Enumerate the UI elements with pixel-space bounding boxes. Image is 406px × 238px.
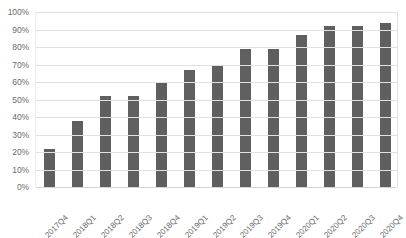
x-axis-tick-text: 2020Q1 [294, 213, 320, 238]
bar [324, 26, 335, 187]
gridline [36, 65, 397, 66]
x-axis-tick-text: 2020Q2 [322, 213, 348, 238]
x-axis-tick-text: 2019Q1 [183, 213, 209, 238]
y-axis-tick-label: 50% [12, 95, 29, 105]
x-axis-tick-text: 2020Q3 [350, 213, 376, 238]
x-axis-tick-text: 2020Q4 [378, 213, 404, 238]
x-axis-tick-text: 2018Q4 [155, 213, 181, 238]
x-axis-tick-label: 2018Q2 [119, 193, 145, 219]
y-axis: 0%10%20%30%40%50%60%70%80%90%100% [0, 0, 32, 238]
x-axis-tick-label: 2019Q3 [259, 193, 285, 219]
y-axis-tick-label: 40% [12, 112, 29, 122]
gridline [36, 30, 397, 31]
y-axis-tick-label: 0% [17, 182, 29, 192]
y-axis-tick-label: 20% [12, 147, 29, 157]
x-axis-tick-text: 2018Q1 [71, 213, 97, 238]
gridline [36, 170, 397, 171]
y-axis-tick-label: 10% [12, 165, 29, 175]
bar-chart: 0%10%20%30%40%50%60%70%80%90%100% 2017Q4… [0, 0, 406, 238]
x-axis-tick-label: 2018Q1 [91, 193, 117, 219]
bar [352, 26, 363, 187]
x-axis-tick-text: 2017Q4 [43, 213, 69, 238]
y-axis-tick-label: 70% [12, 60, 29, 70]
x-axis-tick-label: 2019Q2 [231, 193, 257, 219]
y-axis-tick-label: 100% [8, 7, 29, 17]
x-axis-tick-label: 2020Q3 [370, 193, 396, 219]
x-axis-tick-text: 2019Q4 [267, 213, 293, 238]
x-axis-tick-label: 2019Q4 [287, 193, 313, 219]
y-axis-tick-label: 90% [12, 25, 29, 35]
x-axis-tick-label: 2020Q1 [315, 193, 341, 219]
bar [44, 149, 55, 188]
gridline [36, 82, 397, 83]
x-axis: 2017Q42018Q12018Q22018Q32018Q42019Q12019… [35, 187, 398, 238]
x-axis-tick-label: 2020Q2 [343, 193, 369, 219]
x-axis-tick-label: 2018Q4 [175, 193, 201, 219]
bar [128, 96, 139, 187]
bar [72, 121, 83, 188]
x-axis-tick-label: 2020Q4 [398, 193, 406, 219]
gridline [36, 152, 397, 153]
y-axis-tick-label: 60% [12, 77, 29, 87]
x-axis-tick-label: 2018Q3 [147, 193, 173, 219]
y-axis-tick-label: 30% [12, 130, 29, 140]
x-axis-tick-text: 2019Q3 [239, 213, 265, 238]
x-axis-tick-text: 2019Q2 [211, 213, 237, 238]
plot-area [35, 12, 398, 187]
gridline [36, 12, 397, 13]
bar [296, 35, 307, 187]
bar [100, 96, 111, 187]
y-axis-tick-label: 80% [12, 42, 29, 52]
gridline [36, 47, 397, 48]
x-axis-tick-label: 2017Q4 [63, 193, 89, 219]
gridline [36, 117, 397, 118]
gridline [36, 135, 397, 136]
x-axis-tick-text: 2018Q2 [99, 213, 125, 238]
x-axis-tick-text: 2018Q3 [127, 213, 153, 238]
gridline [36, 100, 397, 101]
x-axis-tick-label: 2019Q1 [203, 193, 229, 219]
